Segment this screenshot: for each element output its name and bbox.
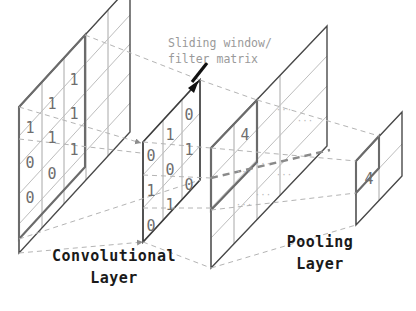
diagram-canvas: 11101100101010101044 ···················…: [0, 0, 416, 311]
conv-label-line-1: Convolutional: [14, 246, 214, 268]
annotation-line-1: Sliding window/: [168, 36, 318, 52]
pooling-cell-ellipsis: ···: [276, 105, 292, 115]
input-cell-value: 1: [69, 141, 78, 159]
input-cell-value: 1: [25, 119, 34, 137]
input-cell-value: 1: [47, 129, 56, 147]
input-cell-value: 0: [25, 154, 34, 172]
pooling-ellipsis-layer: ·····················: [236, 105, 313, 210]
filter-cell-value: 0: [184, 176, 193, 194]
annotation-line-2: filter matrix: [168, 52, 318, 68]
annotation-arrow: [188, 63, 207, 93]
output-cell-value: 4: [364, 170, 373, 188]
input-cell-value: 1: [47, 95, 56, 113]
filter-cell-value: 1: [146, 182, 155, 200]
pooling-cell-ellipsis: ···: [297, 116, 313, 126]
filter-cell-value: 1: [165, 196, 174, 214]
conv-label-line-2: Layer: [14, 268, 214, 290]
pooling-cell-ellipsis: ···: [255, 190, 271, 200]
filter-cell-value: 1: [184, 141, 193, 159]
convolutional-layer-label: Convolutional Layer: [14, 246, 214, 290]
input-cell-value: 1: [69, 105, 78, 123]
filter-cell-value: 0: [184, 106, 193, 124]
input-cell-value: 1: [69, 71, 78, 89]
input-cell-value: 0: [25, 189, 34, 207]
pooling-cell-ellipsis: ···: [255, 159, 271, 169]
input-plane-group: [19, 0, 130, 253]
input-plane-outline: [19, 0, 130, 253]
pooling-cell-ellipsis: ···: [276, 170, 292, 180]
sliding-window-annotation: Sliding window/ filter matrix: [168, 36, 318, 67]
pooling-layer-label: Pooling Layer: [232, 232, 408, 276]
output-plane-group: [356, 112, 402, 225]
input-cell-value: 0: [47, 165, 56, 183]
pooling-cell-ellipsis: ···: [236, 167, 252, 177]
filter-cell-value: 0: [146, 147, 155, 165]
filter-cell-value: 0: [165, 161, 174, 179]
pool-label-line-2: Layer: [232, 254, 408, 276]
filter-cell-value: 0: [146, 217, 155, 235]
filter-cell-value: 1: [165, 126, 174, 144]
pooling-cell-ellipsis: ···: [236, 200, 252, 210]
pooling-cell-value: 4: [240, 126, 249, 144]
input-grid-lines: [19, 0, 130, 253]
pool-label-line-1: Pooling: [232, 232, 408, 254]
